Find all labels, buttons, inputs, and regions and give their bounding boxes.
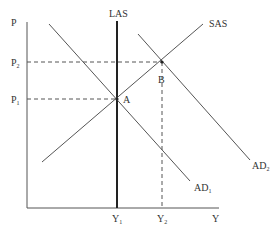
ad1-label: AD1 [194,182,211,194]
point-b-marker [160,60,163,63]
sas-label: SAS [209,18,227,29]
sas-curve [42,24,203,162]
point-a-marker [115,97,118,100]
point-a-label: A [123,94,131,105]
ad1-curve [49,24,190,181]
ad2-label: AD2 [252,160,269,172]
p2-label: P2 [11,57,20,69]
las-label: LAS [109,8,128,19]
point-b-label: B [158,74,165,85]
y1-label: Y1 [112,213,122,225]
y2-label: Y2 [157,213,167,225]
x-axis-label: Y [212,213,219,224]
y-axis-label: P [11,17,17,28]
p1-label: P1 [11,94,20,106]
ad-as-diagram: P Y LAS SAS AD1 AD2 A B P1 P2 Y1 Y2 [0,0,279,231]
